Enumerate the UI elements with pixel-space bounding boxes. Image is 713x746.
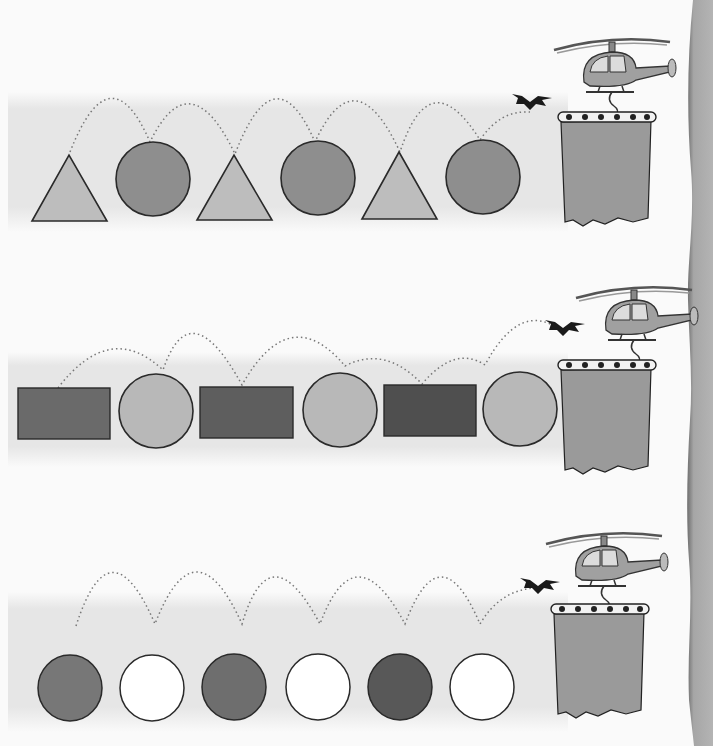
triangle-shape[interactable] — [32, 155, 107, 221]
triangle-shape[interactable] — [362, 152, 437, 219]
curtain-basket-icon — [558, 360, 656, 474]
helicopter-icon — [576, 287, 698, 364]
row-1 — [32, 39, 676, 226]
dotted-jump-path — [58, 321, 560, 388]
curtain-basket-icon — [551, 604, 649, 718]
circle-shape[interactable] — [281, 141, 355, 215]
row-2 — [18, 287, 698, 474]
white-oval-shape[interactable] — [286, 654, 350, 720]
rectangle-shape[interactable] — [18, 388, 110, 439]
rectangle-shape[interactable] — [200, 387, 293, 438]
dark-oval-shape[interactable] — [368, 654, 432, 720]
rectangle-shape[interactable] — [384, 385, 476, 436]
circle-shape[interactable] — [446, 140, 520, 214]
white-oval-shape[interactable] — [450, 654, 514, 720]
worksheet-scene — [0, 0, 713, 746]
dotted-jump-path — [76, 572, 535, 626]
curtain-basket-icon — [558, 112, 656, 226]
circle-shape[interactable] — [119, 374, 193, 448]
triangle-shape[interactable] — [197, 155, 272, 220]
bat-icon — [520, 578, 560, 594]
white-oval-shape[interactable] — [120, 655, 184, 721]
dark-oval-shape[interactable] — [202, 654, 266, 720]
circle-shape[interactable] — [116, 142, 190, 216]
dark-oval-shape[interactable] — [38, 655, 102, 721]
row-3 — [38, 533, 668, 721]
helicopter-icon — [546, 533, 668, 610]
circle-shape[interactable] — [483, 372, 557, 446]
helicopter-icon — [554, 39, 676, 116]
bat-icon — [512, 94, 552, 110]
bat-icon — [545, 320, 585, 336]
circle-shape[interactable] — [303, 373, 377, 447]
